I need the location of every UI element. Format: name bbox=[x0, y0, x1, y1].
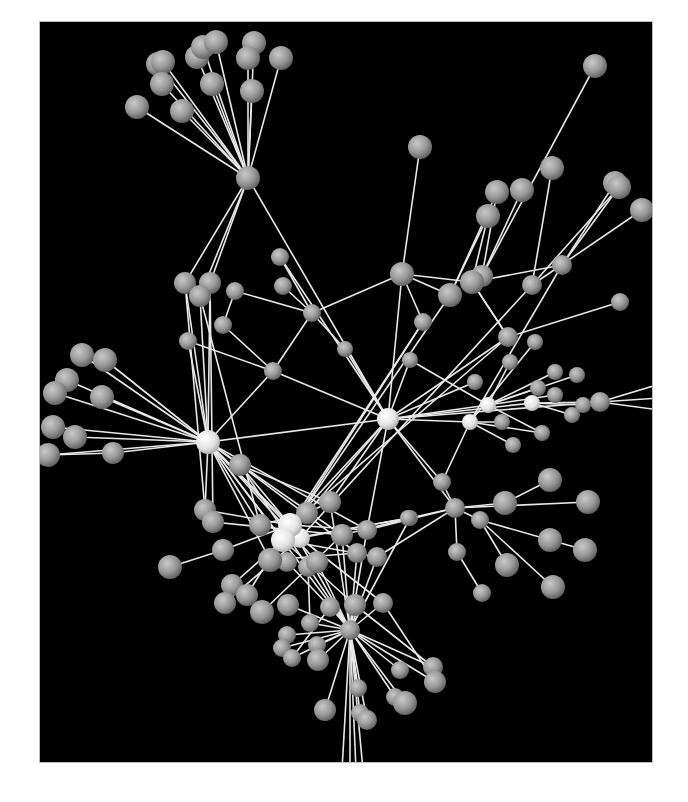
graph-node bbox=[393, 691, 417, 715]
graph-node bbox=[493, 491, 517, 515]
graph-node bbox=[590, 392, 610, 412]
graph-node bbox=[303, 304, 321, 322]
graph-node bbox=[274, 277, 292, 295]
graph-node bbox=[448, 543, 466, 561]
hub-node bbox=[196, 430, 220, 454]
graph-node bbox=[240, 79, 264, 103]
graph-node bbox=[357, 710, 377, 730]
graph-edge bbox=[102, 397, 208, 442]
graph-node bbox=[189, 285, 211, 307]
graph-node bbox=[229, 454, 251, 476]
graph-node bbox=[93, 348, 117, 372]
graph-node bbox=[527, 334, 543, 350]
graph-node bbox=[505, 437, 521, 453]
graph-edge bbox=[280, 257, 388, 419]
graph-node bbox=[534, 425, 550, 441]
graph-node bbox=[414, 313, 432, 331]
graph-node bbox=[540, 156, 564, 180]
graph-node bbox=[331, 524, 353, 546]
graph-edge bbox=[532, 210, 642, 285]
graph-node bbox=[307, 649, 329, 671]
graph-node bbox=[214, 592, 236, 614]
graph-edge bbox=[388, 419, 470, 422]
graph-node bbox=[236, 166, 260, 190]
graph-node bbox=[43, 381, 67, 405]
graph-node bbox=[547, 364, 563, 380]
graph-node bbox=[349, 679, 367, 697]
graph-node bbox=[320, 597, 340, 617]
hub-node bbox=[480, 397, 496, 413]
graph-node bbox=[150, 72, 174, 96]
graph-node bbox=[391, 661, 409, 679]
graph-node bbox=[485, 180, 509, 204]
graph-node bbox=[473, 584, 491, 602]
graph-node bbox=[347, 543, 367, 563]
graph-edge bbox=[367, 419, 388, 530]
graph-node bbox=[538, 468, 562, 492]
graph-edge bbox=[113, 442, 208, 453]
graph-edge bbox=[330, 419, 388, 502]
graph-node bbox=[36, 443, 60, 467]
graph-node bbox=[522, 275, 542, 295]
graph-edge bbox=[223, 325, 273, 371]
graph-node bbox=[170, 99, 194, 123]
hub-node bbox=[524, 395, 540, 411]
graph-node bbox=[573, 538, 597, 562]
graph-node bbox=[202, 511, 224, 533]
graph-node bbox=[41, 415, 65, 439]
graph-node bbox=[400, 510, 416, 526]
graph-node bbox=[204, 30, 228, 54]
graph-node bbox=[301, 614, 319, 632]
graph-node bbox=[530, 380, 546, 396]
graph-edge bbox=[532, 187, 619, 285]
graph-node bbox=[212, 539, 234, 561]
graph-node bbox=[583, 54, 607, 78]
graph-node bbox=[357, 520, 377, 540]
graph-node bbox=[510, 178, 534, 202]
graph-node bbox=[538, 528, 562, 552]
graph-node bbox=[344, 594, 366, 616]
graph-node bbox=[151, 50, 175, 74]
graph-node bbox=[547, 387, 563, 403]
graph-edge bbox=[248, 178, 388, 419]
graph-node bbox=[214, 316, 232, 334]
graph-edge bbox=[402, 147, 420, 274]
graph-node bbox=[408, 135, 432, 159]
graph-node bbox=[460, 270, 484, 294]
graph-node bbox=[630, 198, 654, 222]
graph-node bbox=[179, 332, 197, 350]
graph-node bbox=[433, 473, 451, 491]
graph-node bbox=[445, 498, 465, 518]
graph-node bbox=[271, 248, 289, 266]
graph-node bbox=[277, 594, 299, 616]
graph-node bbox=[552, 255, 572, 275]
graph-node bbox=[102, 442, 124, 464]
hub-node bbox=[271, 528, 295, 552]
graph-node bbox=[476, 204, 500, 228]
graph-node bbox=[564, 407, 580, 423]
graph-node bbox=[283, 649, 301, 667]
graph-edge bbox=[208, 371, 273, 442]
graph-node bbox=[200, 72, 224, 96]
graph-node bbox=[402, 352, 418, 368]
graph-node bbox=[125, 95, 149, 119]
graph-node bbox=[63, 425, 87, 449]
graph-node bbox=[314, 699, 336, 721]
graph-node bbox=[258, 548, 282, 572]
graph-edge bbox=[388, 274, 402, 419]
graph-node bbox=[494, 414, 510, 430]
graph-node bbox=[607, 175, 631, 199]
graph-edge bbox=[182, 111, 248, 178]
graph-node bbox=[337, 341, 353, 357]
graph-edge bbox=[188, 341, 273, 371]
graph-node bbox=[70, 343, 94, 367]
graph-node bbox=[390, 262, 414, 286]
graph-node bbox=[471, 511, 489, 529]
graph-node bbox=[498, 327, 518, 347]
graph-node bbox=[264, 362, 282, 380]
graph-node bbox=[424, 671, 446, 693]
graph-node bbox=[541, 575, 565, 599]
edges-layer bbox=[48, 42, 660, 770]
graph-node bbox=[226, 282, 244, 300]
graph-edge bbox=[273, 313, 312, 371]
